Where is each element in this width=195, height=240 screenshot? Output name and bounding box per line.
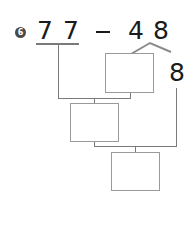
box-split-remainder[interactable]: [105, 53, 154, 93]
box-answer[interactable]: [111, 152, 160, 191]
split-value: 8: [169, 60, 185, 85]
box-intermediate[interactable]: [70, 103, 119, 142]
minuend-stem: [58, 45, 59, 99]
split-value-stem: [176, 88, 177, 147]
